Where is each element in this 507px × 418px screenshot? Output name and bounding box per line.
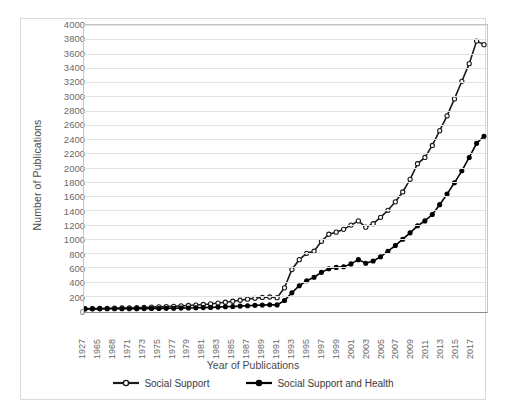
plot-area bbox=[83, 24, 488, 313]
data-point bbox=[467, 155, 471, 159]
data-point bbox=[238, 304, 242, 308]
y-tick-label: 200 bbox=[45, 291, 85, 302]
data-point bbox=[334, 230, 338, 234]
data-point bbox=[349, 262, 353, 266]
x-tick-label: 1977 bbox=[167, 339, 177, 359]
x-tick-label: 2013 bbox=[435, 339, 445, 359]
data-point bbox=[179, 306, 183, 310]
data-point bbox=[482, 134, 486, 138]
x-tick-label: 1995 bbox=[301, 339, 311, 359]
y-tick-label: 3000 bbox=[45, 90, 85, 101]
data-point bbox=[246, 304, 250, 308]
data-point bbox=[164, 306, 168, 310]
y-tick-label: 1200 bbox=[45, 219, 85, 230]
x-tick-label: 2007 bbox=[390, 339, 400, 359]
x-tick-label: 1979 bbox=[181, 339, 191, 359]
x-tick-label: 1973 bbox=[137, 339, 147, 359]
data-point bbox=[245, 297, 249, 301]
legend-item-1[interactable]: Social Support bbox=[112, 377, 209, 389]
legend-item-2[interactable]: Social Support and Health bbox=[245, 377, 393, 389]
data-point bbox=[371, 259, 375, 263]
data-point bbox=[356, 219, 360, 223]
gridline bbox=[84, 25, 487, 26]
data-point bbox=[342, 227, 346, 231]
x-tick-label: 1985 bbox=[226, 339, 236, 359]
gridline bbox=[84, 96, 487, 97]
data-point bbox=[408, 231, 412, 235]
data-point bbox=[216, 305, 220, 309]
data-point bbox=[260, 303, 264, 307]
data-point bbox=[460, 169, 464, 173]
y-tick-label: 3800 bbox=[45, 33, 85, 44]
y-tick-label: 2600 bbox=[45, 119, 85, 130]
gridline bbox=[84, 111, 487, 112]
y-tick-label: 800 bbox=[45, 248, 85, 259]
data-point bbox=[319, 239, 323, 243]
gridline bbox=[84, 125, 487, 126]
y-tick-label: 1800 bbox=[45, 176, 85, 187]
x-tick-label: 2017 bbox=[465, 339, 475, 359]
gridline bbox=[84, 296, 487, 297]
y-tick-label: 1600 bbox=[45, 191, 85, 202]
data-point bbox=[290, 291, 294, 295]
gridline bbox=[84, 68, 487, 69]
data-point bbox=[438, 129, 442, 133]
y-tick-label: 2200 bbox=[45, 148, 85, 159]
data-point bbox=[84, 307, 87, 311]
x-tick-label: 1927 bbox=[77, 339, 87, 359]
y-tick-label: 1000 bbox=[45, 234, 85, 245]
data-point bbox=[201, 306, 205, 310]
data-point bbox=[194, 306, 198, 310]
data-point bbox=[475, 141, 479, 145]
data-point bbox=[223, 300, 227, 304]
gridline bbox=[84, 253, 487, 254]
x-tick-label: 2001 bbox=[346, 339, 356, 359]
gridline bbox=[84, 54, 487, 55]
y-tick-label: 2800 bbox=[45, 105, 85, 116]
y-tick-label: 2000 bbox=[45, 162, 85, 173]
x-tick-label: 1989 bbox=[256, 339, 266, 359]
gridline bbox=[84, 196, 487, 197]
data-point bbox=[356, 258, 360, 262]
data-point bbox=[231, 304, 235, 308]
gridline bbox=[84, 82, 487, 83]
data-point bbox=[401, 190, 405, 194]
data-point bbox=[268, 303, 272, 307]
x-tick-label: 1975 bbox=[152, 339, 162, 359]
data-point bbox=[275, 303, 279, 307]
data-point bbox=[253, 303, 257, 307]
data-point bbox=[364, 225, 368, 229]
filled-circle-icon bbox=[245, 377, 273, 389]
data-point bbox=[90, 307, 94, 311]
x-tick-label: 1981 bbox=[196, 339, 206, 359]
y-tick-label: 2400 bbox=[45, 133, 85, 144]
data-point bbox=[430, 143, 434, 147]
y-axis-title: Number of Publications bbox=[31, 95, 43, 255]
data-point bbox=[120, 307, 124, 311]
data-point bbox=[452, 97, 456, 101]
data-point bbox=[327, 232, 331, 236]
data-point bbox=[438, 203, 442, 207]
data-point bbox=[283, 299, 287, 303]
gridline bbox=[84, 282, 487, 283]
data-point bbox=[393, 200, 397, 204]
y-tick-label: 400 bbox=[45, 277, 85, 288]
data-point bbox=[150, 307, 154, 311]
data-point bbox=[172, 306, 176, 310]
data-point bbox=[135, 307, 139, 311]
y-tick-label: 3200 bbox=[45, 76, 85, 87]
data-point bbox=[364, 261, 368, 265]
data-point bbox=[423, 155, 427, 159]
y-tick-label: 3600 bbox=[45, 47, 85, 58]
gridline bbox=[84, 267, 487, 268]
data-point bbox=[231, 299, 235, 303]
x-tick-label: 2015 bbox=[450, 339, 460, 359]
open-circle-icon bbox=[112, 377, 140, 389]
y-tick-label: 600 bbox=[45, 262, 85, 273]
x-tick-label: 1968 bbox=[107, 339, 117, 359]
gridline bbox=[84, 225, 487, 226]
data-point bbox=[253, 296, 257, 300]
data-point bbox=[186, 306, 190, 310]
x-axis-title: Year of Publications bbox=[21, 359, 485, 371]
data-point bbox=[467, 62, 471, 66]
